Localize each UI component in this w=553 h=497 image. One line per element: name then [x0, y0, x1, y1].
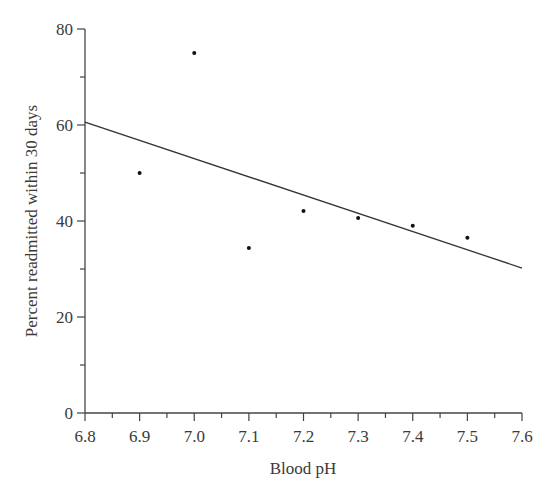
- data-point: [302, 209, 306, 213]
- y-tick-label: 20: [56, 308, 73, 327]
- scatter-chart: 0204060806.86.97.07.17.27.37.47.57.6 Blo…: [0, 0, 553, 497]
- x-tick-label: 7.3: [348, 427, 369, 446]
- y-tick-label: 0: [65, 404, 74, 423]
- data-points: [138, 51, 470, 250]
- data-point: [138, 171, 142, 175]
- x-tick-label: 7.4: [402, 427, 424, 446]
- x-tick-label: 7.1: [238, 427, 259, 446]
- data-point: [465, 236, 469, 240]
- x-tick-label: 7.0: [184, 427, 205, 446]
- x-tick-label: 6.8: [74, 427, 95, 446]
- data-point: [192, 51, 196, 55]
- x-tick-label: 7.5: [457, 427, 478, 446]
- x-tick-label: 7.2: [293, 427, 314, 446]
- fit-line-segment: [85, 122, 522, 268]
- axes: 0204060806.86.97.07.17.27.37.47.57.6: [56, 20, 533, 446]
- data-point: [247, 246, 251, 250]
- data-point: [356, 216, 360, 220]
- x-tick-label: 6.9: [129, 427, 150, 446]
- regression-line: [85, 122, 522, 268]
- y-tick-label: 80: [56, 20, 73, 39]
- data-point: [411, 224, 415, 228]
- y-tick-label: 60: [56, 116, 73, 135]
- x-tick-label: 7.6: [511, 427, 532, 446]
- y-tick-label: 40: [56, 212, 73, 231]
- x-axis-title: Blood pH: [270, 459, 337, 478]
- y-axis-title: Percent readmitted within 30 days: [22, 105, 41, 337]
